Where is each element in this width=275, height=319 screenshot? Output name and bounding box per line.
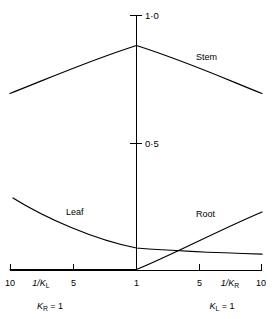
annotation-right-eq: = 1 — [219, 301, 234, 311]
x-axis-right-variable: 1/KR — [221, 278, 240, 289]
chart-plot-area: 1·0 0·5 Stem Leaf Root 10 5 1 5 10 1/KL … — [0, 0, 275, 319]
x-tick-label-center: 1 — [134, 278, 139, 288]
x-tick-label-right-5: 5 — [197, 278, 202, 288]
y-tick-label-0-5: 0·5 — [145, 138, 159, 149]
chart-figure: 1·0 0·5 Stem Leaf Root 10 5 1 5 10 1/KL … — [0, 0, 275, 319]
annotation-right-condition: KL = 1 — [209, 301, 234, 312]
x-axis-right-variable-sub: R — [234, 282, 239, 289]
x-axis-left-variable: 1/KL — [32, 278, 50, 289]
x-axis-left-variable-sub: L — [46, 282, 50, 289]
series-label-stem: Stem — [196, 52, 217, 62]
series-label-root: Root — [196, 209, 216, 219]
annotation-left-condition: KR = 1 — [37, 301, 63, 312]
y-tick-label-1-0: 1·0 — [145, 10, 159, 21]
series-label-leaf: Leaf — [66, 207, 84, 217]
x-tick-label-left-5: 5 — [71, 278, 76, 288]
x-tick-label-far-left: 10 — [5, 278, 15, 288]
x-axis-left-variable-base: 1/K — [32, 278, 47, 288]
annotation-left-eq: = 1 — [48, 301, 63, 311]
x-tick-label-far-right: 10 — [256, 278, 266, 288]
series-line-leaf — [13, 198, 262, 254]
x-axis-right-variable-base: 1/K — [221, 278, 236, 288]
